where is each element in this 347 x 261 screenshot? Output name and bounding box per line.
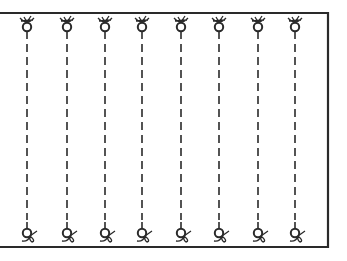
string-4	[135, 16, 152, 242]
string-8	[288, 16, 305, 242]
top-knot-icon	[215, 23, 223, 31]
frame-outline	[0, 13, 328, 247]
bottom-knot-icon	[177, 229, 185, 237]
bottom-knot-icon	[254, 229, 262, 237]
string-7	[251, 16, 268, 242]
string-5	[174, 16, 191, 242]
top-knot-icon	[23, 23, 31, 31]
bottom-knot-icon	[291, 229, 299, 237]
bottom-knot-icon	[101, 229, 109, 237]
string-2	[60, 16, 77, 242]
top-bow-icon	[135, 16, 149, 22]
bottom-knot-icon	[138, 229, 146, 237]
bottom-knot-icon	[215, 229, 223, 237]
string-6	[212, 16, 229, 242]
top-bow-icon	[251, 16, 265, 22]
top-knot-icon	[101, 23, 109, 31]
top-knot-icon	[138, 23, 146, 31]
string-frame-diagram	[0, 0, 347, 261]
top-bow-icon	[174, 16, 188, 22]
frame	[0, 13, 328, 247]
top-bow-icon	[20, 16, 34, 22]
string-3	[98, 16, 115, 242]
strings	[20, 16, 305, 242]
top-bow-icon	[212, 16, 226, 22]
top-bow-icon	[60, 16, 74, 22]
top-knot-icon	[63, 23, 71, 31]
top-knot-icon	[291, 23, 299, 31]
top-knot-icon	[254, 23, 262, 31]
top-bow-icon	[98, 16, 112, 22]
bottom-knot-icon	[23, 229, 31, 237]
top-bow-icon	[288, 16, 302, 22]
bottom-knot-icon	[63, 229, 71, 237]
string-1	[20, 16, 37, 242]
top-knot-icon	[177, 23, 185, 31]
